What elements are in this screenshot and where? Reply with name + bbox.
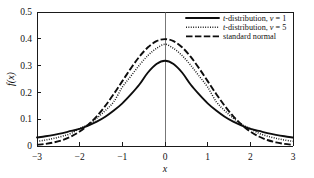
y-axis-tick-labels: 00.10.20.30.40.5 [20,7,32,151]
y-tick-label: 0.5 [20,7,32,17]
x-tick-label: 0 [163,152,168,162]
x-tick-label: 1 [205,152,210,162]
x-tick-label: −2 [75,152,85,162]
x-tick-label: −3 [32,152,42,162]
y-tick-label: 0.1 [20,114,32,124]
y-tick-label: 0 [27,141,32,151]
x-axis-title: x [162,163,168,174]
x-axis-tick-labels: −3−2−10123 [32,152,296,162]
y-axis-ticks [37,12,41,146]
y-tick-label: 0.3 [20,61,32,71]
x-tick-label: 3 [291,152,296,162]
legend-label: t-distribution, ν = 5 [223,23,286,32]
legend-label: standard normal [223,32,277,41]
chart-legend: t-distribution, ν = 1t-distribution, ν =… [186,14,286,41]
t-distribution-density-plot: 00.10.20.30.40.5 −3−2−10123 f(x) x t-dis… [0,0,314,178]
y-axis-title: f(x) [5,71,17,86]
x-axis-ticks [37,142,293,146]
y-tick-label: 0.4 [20,34,32,44]
x-tick-label: −1 [117,152,127,162]
y-tick-label: 0.2 [20,88,32,98]
legend-label: t-distribution, ν = 1 [223,14,286,23]
chart-container: 00.10.20.30.40.5 −3−2−10123 f(x) x t-dis… [0,0,314,178]
x-tick-label: 2 [248,152,253,162]
